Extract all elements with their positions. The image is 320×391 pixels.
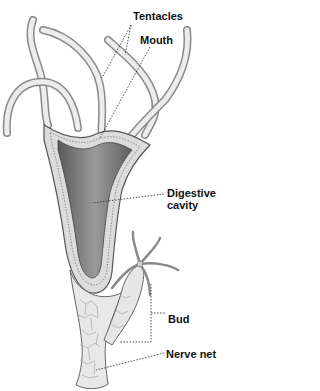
label-tentacles: Tentacles — [133, 10, 183, 22]
label-digestive-cavity: Digestive cavity — [167, 187, 216, 211]
label-digestive-line1: Digestive — [167, 187, 216, 199]
label-mouth: Mouth — [140, 34, 173, 46]
bud-tentacles — [112, 232, 178, 295]
label-bud: Bud — [168, 313, 189, 325]
label-nerve-net: Nerve net — [166, 348, 216, 360]
label-digestive-line2: cavity — [167, 199, 216, 211]
